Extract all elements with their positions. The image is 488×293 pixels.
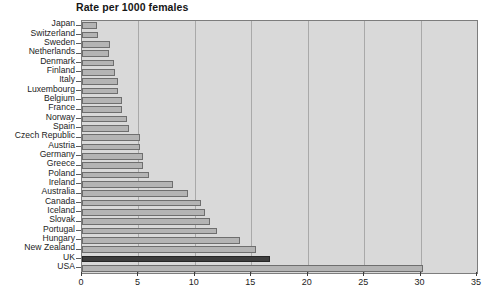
- x-tick-mark-20: [307, 272, 308, 276]
- y-tick-mark: [76, 53, 81, 54]
- y-tick-mark: [76, 81, 81, 82]
- y-tick-mark: [76, 137, 81, 138]
- bar-row: [82, 245, 477, 254]
- bar-row: [82, 58, 477, 67]
- bar-hungary: [82, 237, 240, 244]
- y-tick-mark: [76, 221, 81, 222]
- y-tick-mark: [76, 118, 81, 119]
- bar-row: [82, 68, 477, 77]
- bar-ireland: [82, 181, 173, 188]
- y-tick-mark: [76, 202, 81, 203]
- x-tick-label-20: 20: [302, 277, 312, 287]
- y-tick-label-usa: USA: [57, 262, 75, 271]
- bar-canada: [82, 200, 201, 207]
- bar-row: [82, 217, 477, 226]
- x-tick-mark-25: [363, 272, 364, 276]
- bar-denmark: [82, 60, 114, 67]
- chart-title: Rate per 1000 females: [76, 1, 188, 13]
- y-tick-mark: [76, 183, 81, 184]
- bar-netherlands: [82, 50, 109, 57]
- bar-row: [82, 30, 477, 39]
- bar-norway: [82, 116, 127, 123]
- bar-australia: [82, 190, 188, 197]
- bar-row: [82, 170, 477, 179]
- bar-belgium: [82, 97, 122, 104]
- bar-luxembourg: [82, 88, 118, 95]
- bar-new-zealand: [82, 246, 256, 253]
- bar-row: [82, 105, 477, 114]
- y-axis-labels: JapanSwitzerlandSwedenNetherlandsDenmark…: [0, 20, 78, 272]
- bar-switzerland: [82, 32, 98, 39]
- y-tick-mark: [76, 146, 81, 147]
- bar-row: [82, 77, 477, 86]
- bar-czech-republic: [82, 134, 140, 141]
- bar-row: [82, 152, 477, 161]
- bar-greece: [82, 162, 143, 169]
- bar-row: [82, 161, 477, 170]
- bar-row: [82, 254, 477, 263]
- y-tick-mark: [76, 258, 81, 259]
- bar-germany: [82, 153, 143, 160]
- x-tick-label-5: 5: [135, 277, 140, 287]
- bar-row: [82, 124, 477, 133]
- plot-area: [81, 20, 478, 274]
- x-tick-mark-10: [194, 272, 195, 276]
- y-tick-mark: [76, 249, 81, 250]
- y-tick-mark: [76, 211, 81, 212]
- y-tick-mark: [76, 109, 81, 110]
- y-tick-mark: [76, 25, 81, 26]
- bar-row: [82, 226, 477, 235]
- y-tick-mark: [76, 230, 81, 231]
- bar-row: [82, 198, 477, 207]
- y-tick-mark: [76, 239, 81, 240]
- x-axis: 05101520253035: [81, 272, 477, 292]
- bar-poland: [82, 172, 149, 179]
- bar-row: [82, 114, 477, 123]
- bar-slovak: [82, 218, 210, 225]
- bar-usa: [82, 265, 423, 272]
- bar-row: [82, 40, 477, 49]
- bar-row: [82, 96, 477, 105]
- y-tick-mark: [76, 155, 81, 156]
- y-tick-mark: [76, 99, 81, 100]
- x-tick-label-15: 15: [245, 277, 255, 287]
- y-tick-mark: [76, 62, 81, 63]
- x-tick-mark-15: [250, 272, 251, 276]
- x-tick-mark-30: [420, 272, 421, 276]
- x-tick-label-25: 25: [358, 277, 368, 287]
- y-tick-mark: [76, 43, 81, 44]
- y-tick-mark: [76, 90, 81, 91]
- bar-row: [82, 180, 477, 189]
- y-tick-mark: [76, 127, 81, 128]
- y-tick-mark: [76, 267, 81, 268]
- bar-finland: [82, 69, 115, 76]
- bar-series: [82, 21, 477, 273]
- bar-row: [82, 49, 477, 58]
- x-tick-mark-35: [476, 272, 477, 276]
- bar-row: [82, 21, 477, 30]
- bar-row: [82, 208, 477, 217]
- bar-japan: [82, 22, 97, 29]
- y-tick-mark: [76, 174, 81, 175]
- bar-spain: [82, 125, 129, 132]
- bar-italy: [82, 78, 118, 85]
- bar-iceland: [82, 209, 205, 216]
- x-tick-label-10: 10: [189, 277, 199, 287]
- bar-portugal: [82, 228, 217, 235]
- bar-row: [82, 189, 477, 198]
- bar-row: [82, 133, 477, 142]
- x-tick-label-35: 35: [471, 277, 481, 287]
- y-tick-mark: [76, 34, 81, 35]
- bar-row: [82, 86, 477, 95]
- y-tick-mark: [76, 165, 81, 166]
- bar-row: [82, 142, 477, 151]
- bar-austria: [82, 144, 140, 151]
- x-tick-label-0: 0: [78, 277, 83, 287]
- bar-france: [82, 106, 122, 113]
- x-tick-mark-5: [137, 272, 138, 276]
- x-tick-label-30: 30: [415, 277, 425, 287]
- chart-page: Rate per 1000 females JapanSwitzerlandSw…: [0, 0, 488, 293]
- x-tick-mark-0: [81, 272, 82, 276]
- bar-sweden: [82, 41, 110, 48]
- bar-uk: [82, 256, 270, 263]
